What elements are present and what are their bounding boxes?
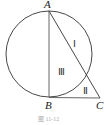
point-label-b: B (45, 99, 52, 111)
region-label-ii: Ⅱ (83, 85, 88, 96)
region-label-i: Ⅰ (73, 38, 76, 49)
geometry-figure: A B C Ⅰ Ⅱ Ⅲ 图 11-12 (0, 0, 104, 125)
figure-caption: 图 11-12 (38, 116, 59, 123)
region-label-iii: Ⅲ (58, 66, 65, 77)
point-label-c: C (96, 99, 104, 111)
point-label-a: A (43, 0, 51, 10)
segment-bc (49, 98, 100, 99)
